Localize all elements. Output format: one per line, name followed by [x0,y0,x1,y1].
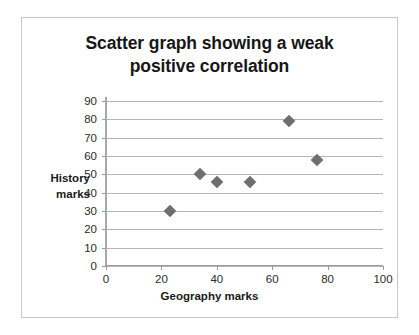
x-tick-label: 100 [373,273,392,285]
data-point [163,205,176,218]
y-tick-mark [102,229,106,230]
y-tick-mark [102,174,106,175]
gridline [106,174,383,175]
plot-area: 0102030405060708090 020406080100 [106,101,383,266]
y-tick-mark [102,138,106,139]
y-tick-mark [102,156,106,157]
x-tick-mark [272,266,273,270]
gridline [106,119,383,120]
gridline [106,211,383,212]
y-axis-title: History marks [32,170,90,203]
data-point [282,115,295,128]
y-tick-label: 30 [84,205,97,217]
chart-title-line-1: Scatter graph showing a weak [22,32,397,55]
y-tick-mark [102,101,106,102]
y-tick-mark [102,119,106,120]
y-tick-mark [102,248,106,249]
y-tick-mark [102,211,106,212]
gridline [106,193,383,194]
x-tick-label: 20 [155,273,168,285]
gridline [106,138,383,139]
x-tick-label: 40 [210,273,223,285]
x-axis-title: Geography marks [22,290,397,302]
y-axis-line [105,97,107,267]
y-tick-label: 70 [84,132,97,144]
x-tick-label: 0 [103,273,109,285]
data-point [244,175,257,188]
y-tick-label: 20 [84,223,97,235]
x-tick-mark [161,266,162,270]
y-tick-label: 10 [84,242,97,254]
x-tick-mark [106,266,107,270]
x-tick-mark [383,266,384,270]
data-point [194,168,207,181]
gridline [106,101,383,102]
x-tick-label: 80 [321,273,334,285]
y-tick-label: 60 [84,150,97,162]
chart-title-line-2: positive correlation [22,55,397,78]
gridline [106,156,383,157]
y-tick-label: 80 [84,113,97,125]
chart-title: Scatter graph showing a weak positive co… [22,32,397,78]
gridline [106,229,383,230]
data-point [210,175,223,188]
x-tick-label: 60 [266,273,279,285]
y-axis-title-line-1: History [32,170,90,186]
y-tick-label: 40 [84,187,97,199]
x-tick-mark [217,266,218,270]
y-tick-label: 0 [91,260,97,272]
gridline [106,266,383,267]
x-tick-mark [328,266,329,270]
y-tick-label: 90 [84,95,97,107]
gridline [106,248,383,249]
chart-frame: Scatter graph showing a weak positive co… [21,17,398,318]
y-tick-mark [102,193,106,194]
y-tick-label: 50 [84,168,97,180]
y-axis-title-line-2: marks [32,186,90,202]
